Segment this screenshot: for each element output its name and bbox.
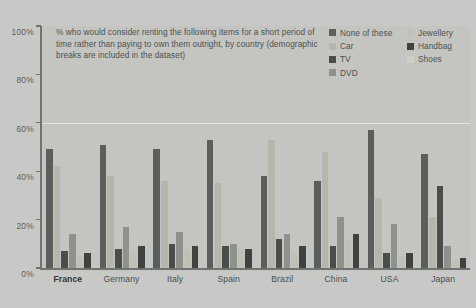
bar[interactable] — [153, 149, 160, 268]
bar[interactable] — [444, 246, 451, 268]
x-axis-label-italy[interactable]: Italy — [148, 274, 202, 284]
bar[interactable] — [123, 227, 130, 268]
bar[interactable] — [284, 234, 291, 268]
y-tick-label-text: 60% — [16, 124, 34, 134]
bar[interactable] — [84, 253, 91, 268]
bar-group-bars — [256, 26, 310, 268]
x-axis-label-japan[interactable]: Japan — [416, 274, 470, 284]
y-tick-label: 40% — [0, 166, 34, 184]
bar[interactable] — [330, 246, 337, 268]
bar[interactable] — [77, 256, 84, 268]
bar[interactable] — [314, 181, 321, 268]
bar-group-bars — [148, 26, 202, 268]
bar[interactable] — [54, 166, 61, 268]
bar[interactable] — [115, 249, 122, 268]
bar[interactable] — [215, 183, 222, 268]
bar[interactable] — [230, 244, 237, 268]
bar[interactable] — [207, 140, 214, 268]
y-tick-label-text: 20% — [16, 221, 34, 231]
bar[interactable] — [184, 249, 191, 268]
y-tick-label-text: 80% — [16, 75, 34, 85]
bar[interactable] — [238, 249, 245, 268]
bar[interactable] — [100, 145, 107, 268]
bar-group-bars — [309, 26, 363, 268]
y-tick-label: 20% — [0, 215, 34, 233]
bar[interactable] — [176, 232, 183, 268]
bar[interactable] — [261, 176, 268, 268]
bar-group-bars — [416, 26, 470, 268]
y-tick-label-text: 0% — [21, 269, 34, 279]
bar[interactable] — [291, 253, 298, 268]
bar[interactable] — [399, 256, 406, 268]
y-tick-label: 80% — [0, 69, 34, 87]
x-axis-line — [40, 268, 470, 270]
bar[interactable] — [222, 246, 229, 268]
bar[interactable] — [169, 244, 176, 268]
bar[interactable] — [299, 246, 306, 268]
bar-group — [416, 26, 470, 268]
bar[interactable] — [130, 253, 137, 268]
bar[interactable] — [391, 224, 398, 268]
x-axis-label-spain[interactable]: Spain — [202, 274, 256, 284]
bar[interactable] — [61, 251, 68, 268]
x-axis-label-usa[interactable]: USA — [363, 274, 417, 284]
bar[interactable] — [268, 140, 275, 268]
bar[interactable] — [192, 246, 199, 268]
bar[interactable] — [429, 217, 436, 268]
bar-group-bars — [41, 26, 95, 268]
y-tick-label-text: 100% — [11, 27, 34, 37]
bar[interactable] — [46, 149, 53, 268]
y-tick-label: 0% — [0, 263, 34, 281]
bar[interactable] — [161, 181, 168, 268]
bar[interactable] — [375, 198, 382, 268]
bar-group — [95, 26, 149, 268]
bar[interactable] — [368, 130, 375, 268]
bar[interactable] — [276, 239, 283, 268]
bar[interactable] — [437, 186, 444, 268]
bar[interactable] — [345, 239, 352, 268]
x-axis-label-france[interactable]: France — [41, 274, 95, 284]
bar-group — [363, 26, 417, 268]
chart-root: 100%80%60%40%20%0% % who would consider … — [0, 0, 476, 308]
bar-group — [309, 26, 363, 268]
bar[interactable] — [406, 253, 413, 268]
y-tick-label-text: 40% — [16, 172, 34, 182]
bar[interactable] — [322, 152, 329, 268]
bar[interactable] — [452, 261, 459, 268]
y-tick-label: 100% — [0, 21, 34, 39]
bar[interactable] — [245, 249, 252, 268]
x-axis-label-germany[interactable]: Germany — [95, 274, 149, 284]
x-axis-label-china[interactable]: China — [309, 274, 363, 284]
bar-group-bars — [95, 26, 149, 268]
bar[interactable] — [69, 234, 76, 268]
y-tick-label: 60% — [0, 118, 34, 136]
bar[interactable] — [383, 253, 390, 268]
bar-groups — [41, 26, 470, 268]
bar[interactable] — [337, 217, 344, 268]
bar-group-bars — [363, 26, 417, 268]
bar[interactable] — [421, 154, 428, 268]
x-axis-label-brazil[interactable]: Brazil — [256, 274, 310, 284]
bar[interactable] — [138, 246, 145, 268]
bar-group — [202, 26, 256, 268]
bar-group — [41, 26, 95, 268]
bar-group-bars — [202, 26, 256, 268]
bar-group — [256, 26, 310, 268]
bar[interactable] — [353, 234, 360, 268]
bar-group — [148, 26, 202, 268]
bar[interactable] — [460, 258, 467, 268]
bar[interactable] — [107, 176, 114, 268]
